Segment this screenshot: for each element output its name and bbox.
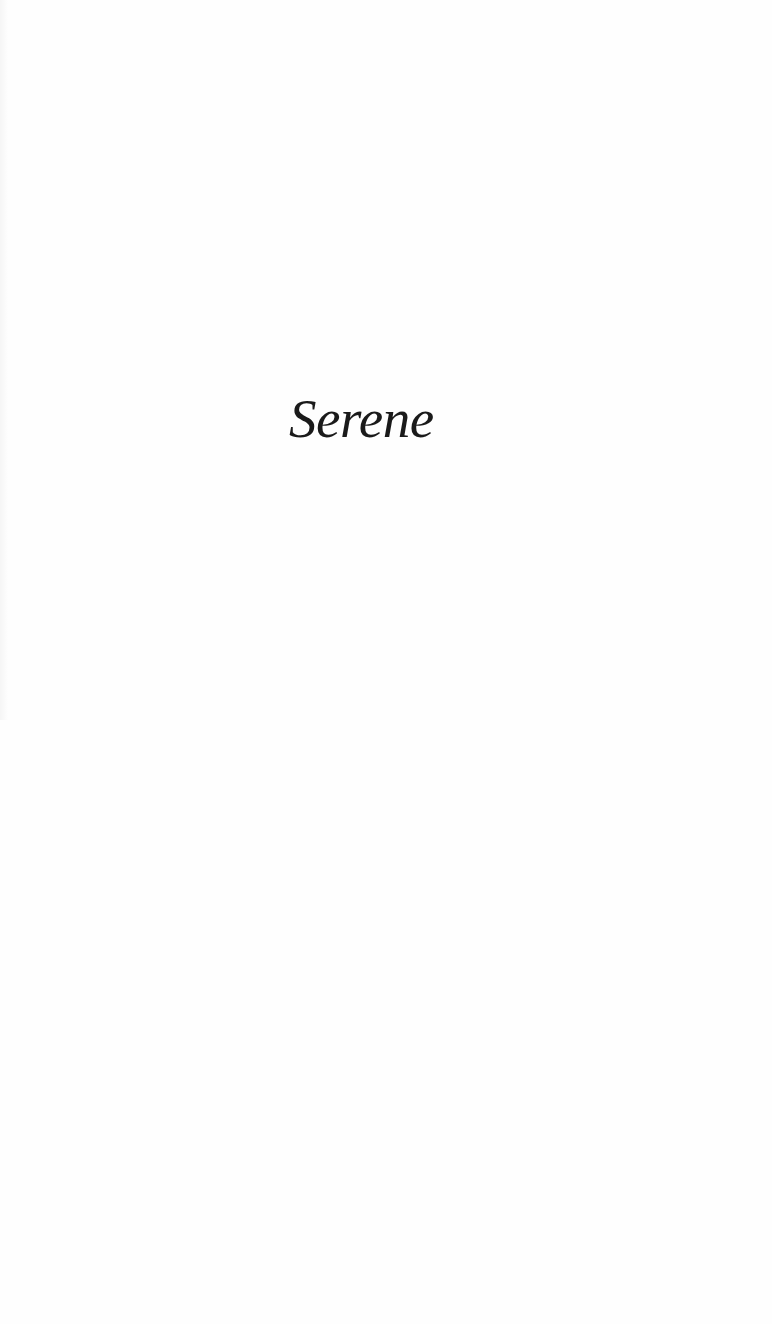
book-page: Serene	[0, 0, 772, 1324]
page-edge-shadow	[0, 0, 8, 720]
half-title: Serene	[289, 383, 434, 455]
